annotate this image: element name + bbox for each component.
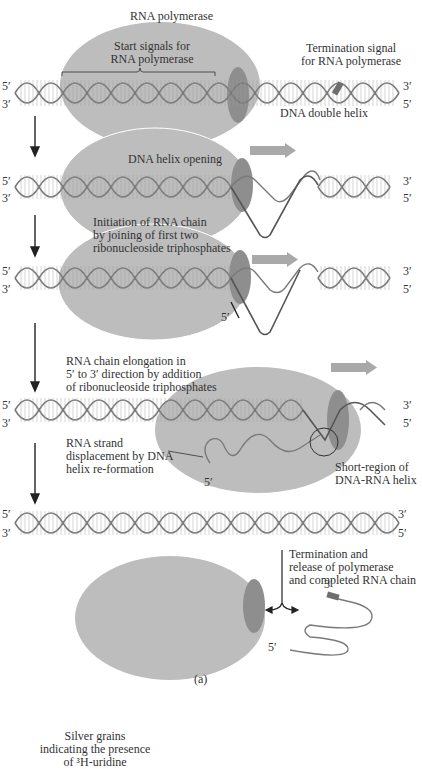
termination-line2: for RNA polymerase [296, 55, 406, 68]
step-arrows [31, 116, 39, 503]
helix-opening-label: DNA helix opening [128, 153, 222, 166]
direction-arrow-2 [250, 143, 296, 158]
displacement-label: RNA strand displacement by DNA helix re-… [66, 437, 173, 476]
end-label: 5′ [2, 265, 11, 278]
silver-grains-line3: of ³H-uridine [30, 756, 160, 769]
end-label: 3′ [403, 175, 412, 188]
end-label: 5′ [403, 98, 412, 111]
end-label: 3′ [403, 80, 412, 93]
silver-grains-label: Silver grains indicating the presence of… [30, 730, 160, 769]
end-label: 3′ [2, 98, 11, 111]
end-label: 5′ [403, 192, 412, 205]
rna-5-end-label: 5′ [268, 641, 277, 654]
start-signals-line2: RNA polymerase [102, 53, 202, 66]
initiation-label: Initiation of RNA chain by joining of fi… [93, 216, 231, 255]
direction-arrow-4 [331, 360, 377, 375]
dna-double-helix-label: DNA double helix [280, 107, 368, 120]
dna-double-helix-5 [15, 511, 399, 535]
start-signals-label: Start signals for RNA polymerase [102, 40, 202, 66]
end-label: 5′ [398, 527, 407, 540]
end-label: 5′ [2, 508, 11, 521]
rna-3-end-label: 3′ [324, 578, 333, 591]
figure-caption: (a) [194, 673, 207, 686]
released-polymerase-site [243, 579, 265, 633]
end-label: 5′ [2, 175, 11, 188]
end-label: 3′ [398, 508, 407, 521]
end-label: 3′ [2, 283, 11, 296]
rna-5-end-label: 5′ [221, 311, 230, 324]
end-label: 5′ [2, 80, 11, 93]
termination-signal-label: Termination signal for RNA polymerase [296, 42, 406, 68]
release-label: Termination and release of polymerase an… [289, 548, 416, 587]
end-label: 3′ [2, 192, 11, 205]
end-label: 3′ [2, 527, 11, 540]
end-label: 5′ [2, 399, 11, 412]
rna-polymerase-label: RNA polymerase [130, 10, 213, 23]
release-line3: and completed RNA chain [289, 574, 416, 587]
hybrid-line2: DNA-RNA helix [335, 474, 417, 487]
elongation-line3: of ribonucleoside triphosphates [66, 381, 217, 394]
initiation-line3: ribonucleoside triphosphates [93, 242, 231, 255]
dna-rna-hybrid-label: Short-region of DNA-RNA helix [335, 461, 417, 487]
direction-arrow-3 [252, 252, 298, 267]
completed-rna-chain [290, 592, 372, 655]
end-label: 3′ [403, 399, 412, 412]
released-polymerase [75, 556, 265, 680]
end-label: 3′ [2, 417, 11, 430]
rna-5-end-label: 5′ [204, 476, 213, 489]
displacement-line3: helix re-formation [66, 463, 173, 476]
elongation-label: RNA chain elongation in 5′ to 3′ directi… [66, 355, 217, 394]
end-label: 5′ [403, 417, 412, 430]
end-label: 3′ [403, 265, 412, 278]
end-label: 5′ [403, 283, 412, 296]
